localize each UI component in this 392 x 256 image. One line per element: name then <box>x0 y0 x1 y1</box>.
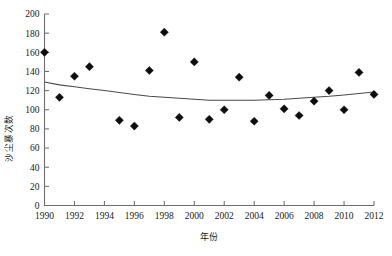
y-tick-label: 100 <box>25 105 40 115</box>
chart-container: 020406080100120140160180200 199019921994… <box>0 0 392 256</box>
x-tick-label: 1994 <box>95 211 114 221</box>
data-point-marker <box>235 73 243 81</box>
x-axis-group: 1990199219941996199820002002200420062008… <box>35 201 384 221</box>
y-tick-label: 20 <box>30 182 40 192</box>
x-tick-label: 1996 <box>125 211 144 221</box>
y-tick-label: 140 <box>25 67 40 77</box>
data-point-marker <box>250 117 258 125</box>
y-tick-label: 80 <box>30 124 40 134</box>
y-tick-label: 0 <box>35 201 40 211</box>
y-axis-tick-labels: 020406080100120140160180200 <box>25 9 40 211</box>
data-point-marker <box>85 63 93 71</box>
y-axis-title: 沙尘暴次数 <box>3 115 14 162</box>
data-point-marker <box>190 58 198 66</box>
data-point-marker <box>220 106 228 114</box>
x-axis-title: 年份 <box>200 231 218 242</box>
data-point-marker <box>145 66 153 74</box>
data-point-marker <box>355 68 363 76</box>
x-tick-label: 2004 <box>245 211 264 221</box>
x-tick-label: 1998 <box>155 211 174 221</box>
x-tick-label: 2008 <box>305 211 324 221</box>
data-point-marker <box>175 113 183 121</box>
data-point-marker <box>205 115 213 123</box>
x-tick-label: 1992 <box>65 211 84 221</box>
x-axis-tick-labels: 1990199219941996199820002002200420062008… <box>35 211 384 221</box>
y-tick-label: 40 <box>30 163 40 173</box>
y-axis-group: 020406080100120140160180200 <box>25 9 49 211</box>
x-tick-label: 2012 <box>365 211 384 221</box>
sandstorm-frequency-scatter-chart: 020406080100120140160180200 199019921994… <box>0 0 392 256</box>
data-point-markers <box>40 28 378 130</box>
y-tick-label: 200 <box>25 9 40 19</box>
plot-data-group <box>40 28 378 130</box>
x-tick-label: 1990 <box>35 211 54 221</box>
y-axis-title-group: 沙尘暴次数 <box>3 115 14 162</box>
trend-line <box>45 82 375 100</box>
data-point-marker <box>295 111 303 119</box>
x-tick-label: 2010 <box>335 211 354 221</box>
y-tick-label: 160 <box>25 48 40 58</box>
y-axis-ticks <box>45 14 50 206</box>
data-point-marker <box>130 122 138 130</box>
data-point-marker <box>325 87 333 95</box>
data-point-marker <box>40 48 48 56</box>
x-axis-ticks <box>45 201 375 206</box>
data-point-marker <box>370 90 378 98</box>
data-point-marker <box>340 106 348 114</box>
data-point-marker <box>310 97 318 105</box>
data-point-marker <box>160 28 168 36</box>
y-tick-label: 120 <box>25 86 40 96</box>
data-point-marker <box>280 105 288 113</box>
data-point-marker <box>55 93 63 101</box>
x-tick-label: 2002 <box>215 211 234 221</box>
data-point-marker <box>70 72 78 80</box>
data-point-marker <box>265 91 273 99</box>
x-tick-label: 2000 <box>185 211 204 221</box>
y-tick-label: 60 <box>30 143 40 153</box>
y-tick-label: 180 <box>25 29 40 39</box>
data-point-marker <box>115 116 123 124</box>
x-tick-label: 2006 <box>275 211 294 221</box>
